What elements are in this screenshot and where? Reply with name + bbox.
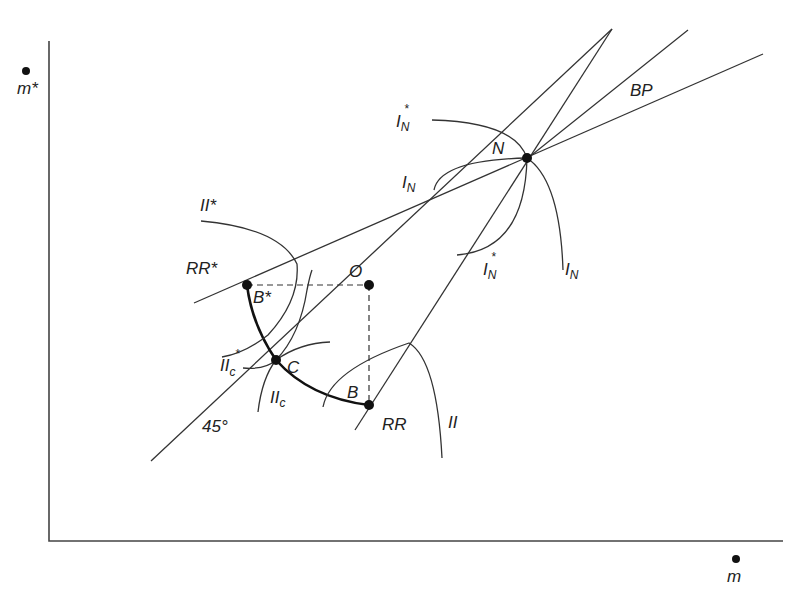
y-axis-dot-icon xyxy=(22,67,30,75)
point-n xyxy=(522,153,532,163)
point-c xyxy=(271,355,281,365)
label-b: B xyxy=(347,383,358,402)
label-i-n-star-lower-sup: * xyxy=(491,250,496,264)
label-rr-star: RR* xyxy=(186,259,219,278)
line-rr-star xyxy=(194,54,763,303)
axes xyxy=(49,41,783,541)
label-i-n-right: IN xyxy=(565,260,579,282)
label-ii-star: II* xyxy=(200,196,217,215)
curve-i-n-right xyxy=(527,158,563,270)
label-ii: II xyxy=(448,413,458,432)
label-45-degree: 45° xyxy=(202,417,228,436)
line-rr xyxy=(355,29,612,430)
y-axis-label: m* xyxy=(17,79,39,98)
point-b xyxy=(364,400,374,410)
label-ii-c-star: IIc xyxy=(220,356,235,379)
diagram-canvas: m* m N O B* C B BP RR RR* 45° II II* xyxy=(0,0,799,596)
label-c: C xyxy=(287,358,300,377)
line-bp xyxy=(528,30,688,158)
x-axis-label: m xyxy=(727,567,741,586)
label-rr: RR xyxy=(382,415,407,434)
label-o: O xyxy=(349,262,362,281)
label-i-n-left: IN xyxy=(402,173,416,195)
line-45-degree xyxy=(151,29,612,461)
label-ii-c: IIc xyxy=(270,388,285,410)
label-i-n-star-upper-sup: * xyxy=(404,102,409,116)
point-o xyxy=(364,280,374,290)
label-bp: BP xyxy=(630,81,653,100)
point-b-star xyxy=(242,280,252,290)
x-axis-dot-icon xyxy=(732,555,740,563)
label-n: N xyxy=(492,139,505,158)
label-ii-c-star-sup: * xyxy=(235,347,240,361)
label-b-star: B* xyxy=(253,288,272,307)
